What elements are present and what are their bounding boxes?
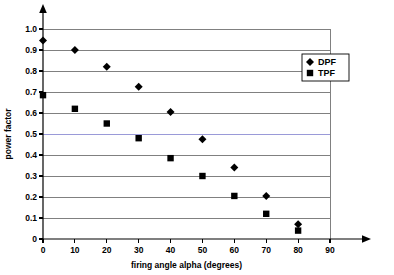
- scatter-chart: 00.10.20.30.40.50.60.70.80.91.0010203040…: [0, 0, 394, 275]
- data-point-TPF-70: [263, 211, 269, 217]
- y-tick-label-0.9: 0.9: [25, 45, 37, 55]
- y-tick-label-0.5: 0.5: [25, 129, 37, 139]
- y-tick-label-0.1: 0.1: [25, 213, 37, 223]
- x-tick-label-10: 10: [70, 245, 80, 255]
- x-axis-arrow: [362, 235, 371, 243]
- y-tick-label-0.4: 0.4: [25, 150, 37, 160]
- data-point-TPF-30: [135, 135, 141, 141]
- y-axis-arrow: [39, 4, 47, 13]
- data-point-DPF-40: [167, 108, 175, 116]
- data-point-DPF-50: [198, 135, 206, 143]
- y-tick-label-0.8: 0.8: [25, 66, 37, 76]
- data-point-TPF-60: [231, 193, 237, 199]
- y-tick-label-1.0: 1.0: [25, 24, 37, 34]
- y-tick-label-0: 0: [32, 234, 37, 244]
- y-tick-label-0.2: 0.2: [25, 192, 37, 202]
- data-point-DPF-30: [135, 83, 143, 91]
- x-tick-label-40: 40: [166, 245, 176, 255]
- x-tick-label-60: 60: [230, 245, 240, 255]
- y-tick-label-0.6: 0.6: [25, 108, 37, 118]
- data-point-TPF-40: [167, 155, 173, 161]
- y-tick-label-0.7: 0.7: [25, 87, 37, 97]
- x-tick-label-0: 0: [41, 245, 46, 255]
- x-tick-label-90: 90: [325, 245, 335, 255]
- data-point-DPF-60: [230, 164, 238, 172]
- x-tick-label-70: 70: [261, 245, 271, 255]
- legend-label-DPF: DPF: [318, 57, 337, 67]
- data-point-TPF-50: [199, 173, 205, 179]
- data-point-DPF-80: [294, 220, 302, 228]
- chart-canvas: 00.10.20.30.40.50.60.70.80.91.0010203040…: [0, 0, 394, 275]
- x-tick-label-80: 80: [293, 245, 303, 255]
- data-point-TPF-20: [104, 120, 110, 126]
- data-point-TPF-80: [295, 227, 301, 233]
- x-tick-label-50: 50: [198, 245, 208, 255]
- y-tick-label-0.3: 0.3: [25, 171, 37, 181]
- legend-label-TPF: TPF: [318, 68, 336, 78]
- data-point-DPF-0: [39, 37, 47, 45]
- legend-marker-TPF: [307, 70, 313, 76]
- data-point-TPF-0: [40, 92, 46, 98]
- data-point-DPF-10: [71, 46, 79, 54]
- data-point-TPF-10: [72, 106, 78, 112]
- y-axis-title: power factor: [3, 108, 13, 160]
- data-point-DPF-20: [103, 63, 111, 71]
- data-point-DPF-70: [262, 192, 270, 200]
- x-axis-title: firing angle alpha (degrees): [131, 260, 242, 270]
- x-tick-label-20: 20: [102, 245, 112, 255]
- x-tick-label-30: 30: [134, 245, 144, 255]
